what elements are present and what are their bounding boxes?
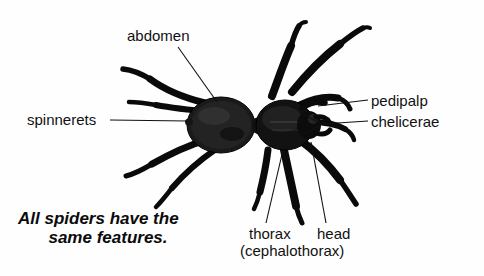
spider-anatomy-figure: abdomen spinnerets pedipalp chelicerae t… [0,0,484,276]
spider-body-group [123,22,370,223]
label-chelicerae: chelicerae [371,114,439,130]
label-cephalothorax: (cephalothorax) [240,243,344,259]
spinnerets-shape [185,119,193,126]
label-abdomen: abdomen [127,28,190,44]
label-spinnerets: spinnerets [27,112,96,128]
label-head: head [317,226,350,242]
caption-line-1: All spiders have the [18,209,198,228]
label-pedipalp: pedipalp [371,93,428,109]
figure-caption: All spiders have the same features. [18,209,198,247]
label-thorax: thorax [249,226,291,242]
leader-spinnerets [110,120,187,121]
caption-line-2: same features. [18,228,198,247]
